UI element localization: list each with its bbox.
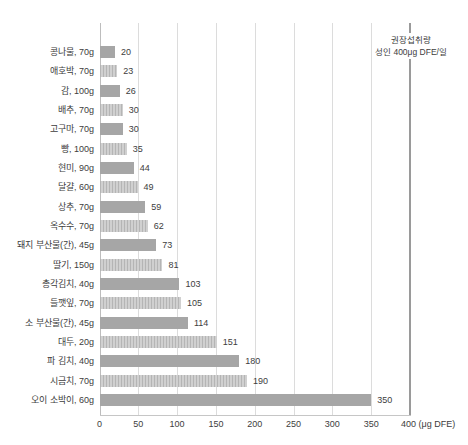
bar (100, 143, 127, 155)
x-tick-label: 200 (247, 419, 262, 430)
value-label: 103 (185, 278, 200, 290)
bar (100, 336, 217, 348)
bar (100, 220, 148, 232)
value-label: 81 (168, 259, 178, 271)
value-label: 30 (129, 104, 139, 116)
bar (100, 85, 120, 97)
bar (100, 278, 180, 290)
annotation-line1: 권장섭취량 (375, 34, 447, 46)
value-label: 20 (121, 46, 131, 58)
x-tick-label: 0 (97, 419, 102, 430)
value-label: 114 (194, 317, 208, 329)
value-label: 180 (245, 355, 260, 367)
x-tick-label: 150 (208, 419, 223, 430)
value-label: 73 (162, 239, 172, 251)
bar (100, 297, 182, 309)
bar (100, 394, 372, 406)
x-tick-label: 100 (170, 419, 185, 430)
value-label: 35 (133, 143, 143, 155)
x-tick-label: 50 (133, 419, 143, 430)
bar (100, 239, 157, 251)
value-label: 44 (140, 162, 150, 174)
bar (100, 259, 163, 271)
value-label: 105 (187, 297, 202, 309)
bar (100, 104, 123, 116)
bar (100, 181, 138, 193)
bar (100, 375, 247, 387)
value-label: 26 (126, 85, 136, 97)
x-tick-label: 300 (325, 419, 340, 430)
folate-bar-chart: 콩나물, 70g애호박, 70g감, 100g배추, 70g고구마, 70g빵,… (0, 0, 468, 445)
value-label: 151 (223, 336, 238, 348)
bar (100, 162, 134, 174)
bar (100, 65, 118, 77)
value-label: 23 (123, 65, 133, 77)
value-label: 59 (151, 201, 161, 213)
x-tick-label: 250 (286, 419, 301, 430)
bar (100, 355, 240, 367)
bar (100, 201, 146, 213)
x-tick-label: 350 (364, 419, 379, 430)
value-label: 30 (129, 123, 139, 135)
annotation-line2: 성인 400μg DFE/일 (375, 46, 447, 58)
value-label: 62 (154, 220, 164, 232)
value-label: 49 (144, 181, 154, 193)
value-label: 350 (377, 394, 392, 406)
bar (100, 123, 123, 135)
bar (100, 46, 116, 58)
x-tick-label: 400 (μg DFE) (401, 419, 455, 430)
value-label: 190 (253, 375, 268, 387)
reference-annotation: 권장섭취량 성인 400μg DFE/일 (373, 33, 449, 59)
bar (100, 317, 188, 329)
x-axis-line (100, 415, 412, 416)
